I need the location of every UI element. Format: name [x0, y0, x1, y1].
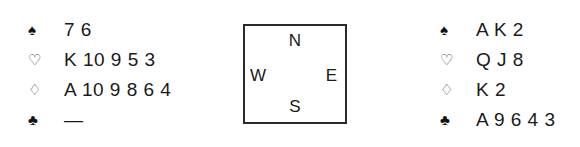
spade-icon: ♠	[440, 22, 462, 37]
east-spade-cards: A K 2	[462, 20, 524, 39]
west-club-row: ♣ —	[28, 104, 171, 134]
east-diamond-cards: K 2	[462, 80, 506, 99]
west-spade-row: ♠ 7 6	[28, 14, 171, 44]
heart-icon: ♡	[28, 52, 50, 67]
east-hand: ♠ A K 2 ♡ Q J 8 ♢ K 2 ♣ A 9 6 4 3	[440, 14, 556, 134]
west-hand: ♠ 7 6 ♡ K 10 9 5 3 ♢ A 10 9 8 6 4 ♣ —	[28, 14, 171, 134]
compass-label-east: E	[326, 67, 337, 84]
west-heart-cards: K 10 9 5 3	[50, 50, 156, 69]
heart-icon: ♡	[440, 52, 462, 67]
compass-box: N W E S	[243, 24, 347, 124]
east-diamond-row: ♢ K 2	[440, 74, 556, 104]
diamond-icon: ♢	[440, 82, 462, 97]
diamond-icon: ♢	[28, 82, 50, 97]
west-heart-row: ♡ K 10 9 5 3	[28, 44, 171, 74]
west-diamond-cards: A 10 9 8 6 4	[50, 80, 171, 99]
east-heart-row: ♡ Q J 8	[440, 44, 556, 74]
club-icon: ♣	[28, 112, 50, 127]
compass-label-south: S	[245, 98, 345, 115]
west-diamond-row: ♢ A 10 9 8 6 4	[28, 74, 171, 104]
club-icon: ♣	[440, 112, 462, 127]
east-heart-cards: Q J 8	[462, 50, 524, 69]
compass-label-west: W	[250, 67, 266, 84]
west-spade-cards: 7 6	[50, 20, 92, 39]
compass-label-north: N	[245, 32, 345, 49]
east-spade-row: ♠ A K 2	[440, 14, 556, 44]
east-club-cards: A 9 6 4 3	[462, 110, 556, 129]
west-club-cards: —	[50, 110, 83, 129]
spade-icon: ♠	[28, 22, 50, 37]
east-club-row: ♣ A 9 6 4 3	[440, 104, 556, 134]
